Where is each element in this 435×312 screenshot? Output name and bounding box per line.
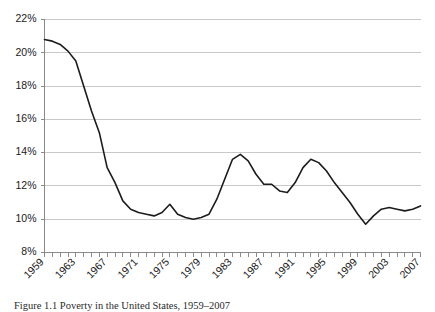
- x-axis-labels: 1959196319671971197519791983198719911995…: [21, 255, 422, 280]
- x-tick-label: 2007: [397, 255, 422, 280]
- x-tick-label: 1959: [21, 255, 46, 280]
- gridlines: [45, 20, 421, 220]
- y-axis-labels: 22%20%18%16%14%12%10%8%: [15, 12, 36, 257]
- x-tick-label: 1983: [209, 255, 234, 280]
- y-tick-label: 18%: [15, 79, 36, 91]
- x-tick-label: 1991: [272, 255, 297, 280]
- y-tick-label: 10%: [15, 212, 36, 224]
- x-tick-label: 1979: [178, 255, 203, 280]
- y-tick-label: 22%: [15, 12, 36, 24]
- y-tick-label: 8%: [21, 245, 36, 257]
- y-tick-label: 16%: [15, 112, 36, 124]
- figure-caption: Figure 1.1 Poverty in the United States,…: [14, 300, 230, 311]
- poverty-rate-line-chart: 22%20%18%16%14%12%10%8% 1959196319671971…: [0, 0, 435, 312]
- x-tick-label: 1963: [52, 255, 77, 280]
- y-tick-label: 14%: [15, 145, 36, 157]
- x-tick-label: 1971: [115, 255, 140, 280]
- x-tick-label: 1975: [146, 255, 171, 280]
- x-tick-label: 1967: [84, 255, 109, 280]
- x-tick-label: 1987: [240, 255, 265, 280]
- x-tick-label: 1999: [334, 255, 359, 280]
- chart-canvas: 22%20%18%16%14%12%10%8% 1959196319671971…: [0, 0, 435, 312]
- x-tick-label: 1995: [303, 255, 328, 280]
- y-tick-label: 20%: [15, 46, 36, 58]
- y-tick-label: 12%: [15, 179, 36, 191]
- poverty-rate-series-line: [45, 39, 421, 224]
- x-tick-label: 2003: [366, 255, 391, 280]
